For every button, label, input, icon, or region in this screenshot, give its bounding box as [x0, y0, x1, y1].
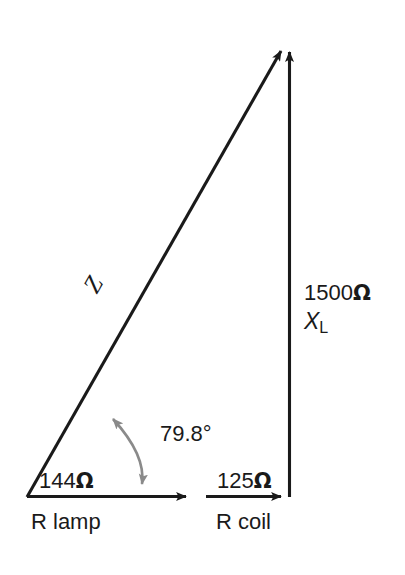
r-coil-value-label: 125Ω — [217, 470, 272, 492]
r-lamp-value-label: 144Ω — [39, 470, 94, 492]
r-coil-value: 125 — [217, 468, 254, 493]
reactance-value: 1500 — [304, 280, 353, 305]
phasor-diagram: 144Ω R lamp 125Ω R coil 1500Ω XL 79.8° Z — [0, 0, 405, 575]
reactance-subscript: L — [319, 319, 328, 336]
r-lamp-value: 144 — [39, 468, 76, 493]
angle-arc — [113, 419, 142, 484]
r-lamp-unit: Ω — [76, 469, 94, 493]
impedance-vector-line — [27, 51, 281, 497]
r-lamp-name-label: R lamp — [31, 511, 101, 533]
r-coil-name-label: R coil — [216, 511, 271, 533]
reactance-symbol-label: XL — [304, 310, 328, 336]
reactance-value-label: 1500Ω — [304, 282, 371, 304]
reactance-symbol: X — [304, 308, 319, 334]
angle-label: 79.8° — [160, 423, 212, 445]
reactance-unit: Ω — [353, 281, 371, 305]
r-coil-unit: Ω — [254, 469, 272, 493]
